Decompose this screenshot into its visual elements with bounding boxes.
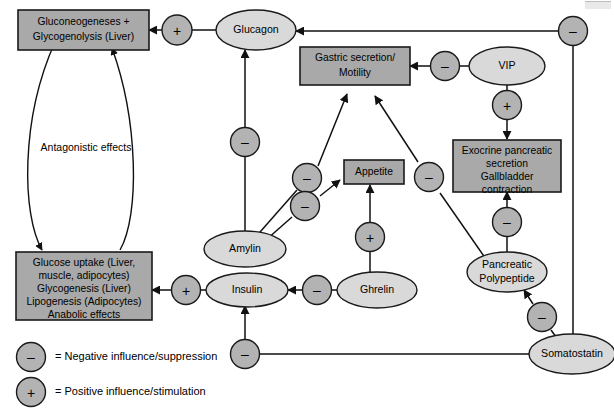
minus-sign-label: – bbox=[425, 169, 433, 185]
plus-sign-label: + bbox=[503, 98, 511, 114]
sign-amylin-to-glucagon: – bbox=[231, 128, 260, 157]
glucose-uptake-line2: muscle, adipocytes) bbox=[39, 270, 130, 281]
antagonistic-effects-caption: Antagonistic effects bbox=[41, 141, 132, 153]
insulin-label: Insulin bbox=[232, 283, 263, 295]
legend-positive: + = Positive influence/stimulation bbox=[17, 378, 206, 407]
sign-pp-to-exocrine: – bbox=[493, 208, 522, 237]
somatostatin-label: Somatostatin bbox=[541, 347, 603, 359]
minus-sign-label: – bbox=[503, 214, 511, 230]
ghrelin-label: Ghrelin bbox=[360, 283, 394, 295]
sign-pp-to-gastric: – bbox=[415, 163, 444, 192]
sign-glucagon-to-gluconeogenesis: + bbox=[162, 15, 192, 45]
hormone-interaction-diagram: Gluconeogeneses + Glycogenolysis (Liver)… bbox=[0, 0, 614, 414]
sign-amylin-to-appetite: – bbox=[291, 192, 320, 221]
minus-sign-label: – bbox=[538, 309, 546, 325]
minus-sign-label: – bbox=[313, 282, 321, 298]
sign-ghrelin-to-insulin: – bbox=[303, 276, 332, 305]
edge-minus-to-appetite bbox=[320, 180, 340, 196]
glucose-uptake-line5: Anabolic effects bbox=[48, 309, 121, 320]
node-amylin: Amylin bbox=[204, 231, 286, 267]
pp-line2: Polypeptide bbox=[479, 272, 534, 284]
glucose-uptake-line1: Glucose uptake (Liver, bbox=[33, 257, 135, 268]
exocrine-line4: contraction bbox=[482, 184, 533, 195]
vip-label: VIP bbox=[498, 59, 515, 71]
legend-negative: – = Negative influence/suppression bbox=[17, 343, 218, 372]
scan-artifact bbox=[585, 1, 611, 9]
node-gluconeogenesis-box: Gluconeogeneses + Glycogenolysis (Liver) bbox=[18, 10, 149, 50]
diagram-canvas: Gluconeogeneses + Glycogenolysis (Liver)… bbox=[0, 0, 614, 414]
sign-amylin-to-gastric: – bbox=[293, 164, 322, 193]
edge-pp-to-minus-gastric bbox=[440, 193, 488, 262]
glucose-uptake-line3: Glycogenesis (Liver) bbox=[37, 283, 131, 294]
edge-minus-to-pp bbox=[524, 290, 533, 304]
node-appetite-box: Appetite bbox=[344, 160, 404, 184]
node-somatostatin: Somatostatin bbox=[529, 334, 614, 374]
node-exocrine-box: Exocrine pancreatic secretion Gallbladde… bbox=[453, 140, 561, 195]
plus-sign-label: + bbox=[366, 230, 374, 246]
exocrine-line3: Gallbladder bbox=[481, 171, 534, 182]
node-glucagon: Glucagon bbox=[216, 10, 296, 50]
minus-sign-label: – bbox=[301, 198, 309, 214]
node-ghrelin: Ghrelin bbox=[337, 272, 417, 308]
amylin-label: Amylin bbox=[229, 242, 261, 254]
legend-plus-sign: + bbox=[27, 385, 35, 401]
minus-sign-label: – bbox=[303, 170, 311, 186]
legend-negative-text: = Negative influence/suppression bbox=[55, 350, 217, 362]
sign-insulin-to-glucose-uptake: + bbox=[172, 276, 201, 305]
sign-somatostatin-to-pp: – bbox=[528, 303, 557, 332]
sign-somatostatin-to-insulin: – bbox=[231, 340, 260, 369]
legend-positive-text: = Positive influence/stimulation bbox=[55, 385, 206, 397]
sign-vip-to-gastric: – bbox=[431, 52, 460, 81]
glucose-uptake-line4: Lipogenesis (Adipocytes) bbox=[26, 296, 141, 307]
pp-line1: Pancreatic bbox=[482, 258, 533, 270]
minus-sign-label: – bbox=[241, 346, 249, 362]
node-glucose-uptake-box: Glucose uptake (Liver, muscle, adipocyte… bbox=[16, 252, 152, 320]
minus-sign-label: – bbox=[241, 134, 249, 150]
plus-sign-label: + bbox=[173, 23, 181, 39]
gluconeogenesis-line2: Glycogenolysis (Liver) bbox=[33, 31, 134, 42]
edge-minus-to-gastric-left bbox=[318, 94, 347, 166]
glucagon-label: Glucagon bbox=[233, 23, 278, 35]
legend-minus-sign: – bbox=[27, 349, 35, 365]
node-vip: VIP bbox=[469, 47, 545, 85]
appetite-label: Appetite bbox=[355, 166, 393, 177]
gastric-line2: Motility bbox=[339, 67, 372, 78]
minus-sign-label: – bbox=[569, 23, 577, 39]
sign-somatostatin-to-glucagon: – bbox=[559, 17, 588, 46]
gastric-line1: Gastric secretion/ bbox=[315, 52, 395, 63]
sign-ghrelin-to-appetite: + bbox=[356, 223, 385, 252]
exocrine-line1: Exocrine pancreatic bbox=[462, 145, 552, 156]
node-pancreatic-polypeptide: Pancreatic Polypeptide bbox=[467, 252, 547, 292]
exocrine-line2: secretion bbox=[486, 158, 528, 169]
edge-minus-to-gastric-diagonal bbox=[375, 96, 418, 162]
node-gastric-box: Gastric secretion/ Motility bbox=[300, 47, 410, 85]
gluconeogenesis-line1: Gluconeogeneses + bbox=[38, 16, 130, 27]
sign-vip-to-exocrine: + bbox=[493, 91, 522, 120]
plus-sign-label: + bbox=[182, 283, 190, 299]
node-insulin: Insulin bbox=[206, 273, 288, 307]
minus-sign-label: – bbox=[441, 58, 449, 74]
